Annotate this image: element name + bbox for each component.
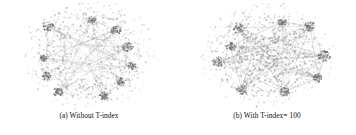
network-graph-a (0, 0, 178, 110)
panel-a: (a) Without T-index (0, 0, 178, 135)
figure-container: (a) Without T-index (b) With T-index= 10… (0, 0, 356, 135)
panel-b: (b) With T-index= 100 (178, 0, 356, 135)
graph-plot-a (0, 0, 178, 110)
graph-plot-b (178, 0, 356, 110)
caption-b: (b) With T-index= 100 (178, 111, 356, 120)
network-graph-b (178, 0, 356, 110)
caption-a: (a) Without T-index (0, 111, 178, 120)
